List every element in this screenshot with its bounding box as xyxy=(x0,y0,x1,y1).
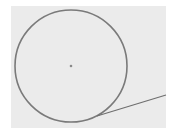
circle-tangent-diagram xyxy=(0,0,177,139)
center-point xyxy=(70,65,73,68)
